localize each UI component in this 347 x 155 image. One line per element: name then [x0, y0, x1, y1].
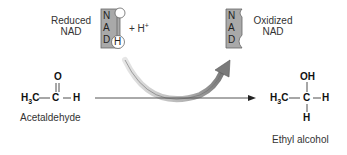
letter-n: N [228, 10, 235, 22]
curved-arrow-icon [125, 60, 230, 99]
letter-a: A [228, 22, 235, 34]
ethanol-methyl: H3C [270, 92, 288, 105]
acetaldehyde-hydrogen: H [73, 92, 80, 103]
ethanol-hydrogen-bottom: H [303, 112, 310, 123]
ethanol-hydrogen-right: H [322, 92, 329, 103]
acetaldehyde-oxygen: O [54, 71, 62, 82]
nad-hydrogen-circle-label: H [114, 36, 121, 47]
letter-d: D [103, 34, 110, 46]
ethanol-carbon: C [303, 92, 310, 103]
letter-d: D [228, 34, 235, 46]
ethanol-hydroxyl: OH [300, 71, 315, 82]
acetaldehyde-label: Acetaldehyde [20, 112, 90, 123]
oxidized-label-line2: NAD [249, 26, 297, 37]
oxidized-nad-letters: N A D [228, 10, 235, 46]
acetaldehyde-carbon: C [52, 92, 59, 103]
letter-a: A [103, 22, 110, 34]
proton-charge: + [145, 22, 149, 29]
reduced-label-line1: Reduced [46, 15, 96, 26]
acetaldehyde-methyl: H3C [21, 92, 39, 105]
oxidized-label-line1: Oxidized [249, 15, 297, 26]
reduced-nad-letters: N A D [103, 10, 110, 46]
reduced-nad-label: Reduced NAD [46, 15, 96, 37]
plus-proton: + H+ [129, 22, 149, 34]
plus-h-text: + H [129, 23, 145, 34]
oxidized-nad-label: Oxidized NAD [249, 15, 297, 37]
ethyl-alcohol-label: Ethyl alcohol [272, 134, 342, 145]
reduced-label-line2: NAD [46, 26, 96, 37]
letter-n: N [103, 10, 110, 22]
